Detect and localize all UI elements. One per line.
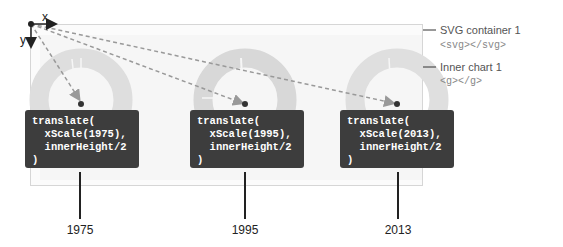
y-axis-label: y <box>20 33 26 47</box>
code-line: translate( <box>197 115 297 128</box>
code-line: translate( <box>347 115 447 128</box>
inner-chart-code: <g></g> <box>440 76 482 87</box>
svg-container-title: SVG container 1 <box>440 24 521 36</box>
inner-chart-title: Inner chart 1 <box>440 61 502 73</box>
code-line: xScale(1995), <box>197 128 297 141</box>
code-line: xScale(1975), <box>32 128 132 141</box>
tick-label-1975: 1975 <box>67 223 94 237</box>
tick-label-1995: 1995 <box>232 223 259 237</box>
code-box-2013: translate( xScale(2013), innerHeight/2) <box>340 110 454 168</box>
svg-container-code: <svg></svg> <box>440 40 506 51</box>
code-box-1975: translate( xScale(1975), innerHeight/2) <box>25 110 139 168</box>
x-axis-label: x <box>42 10 48 24</box>
code-line: innerHeight/2 <box>32 141 132 154</box>
code-line: ) <box>32 154 132 167</box>
center-dot-1995 <box>242 101 248 107</box>
code-line: ) <box>347 154 447 167</box>
code-line: innerHeight/2 <box>347 141 447 154</box>
code-box-1995: translate( xScale(1995), innerHeight/2) <box>190 110 304 168</box>
code-line: xScale(2013), <box>347 128 447 141</box>
code-line: translate( <box>32 115 132 128</box>
center-dot-1975 <box>78 101 84 107</box>
code-line: ) <box>197 154 297 167</box>
code-line: innerHeight/2 <box>197 141 297 154</box>
tick-label-2013: 2013 <box>385 223 412 237</box>
center-dot-2013 <box>394 101 400 107</box>
